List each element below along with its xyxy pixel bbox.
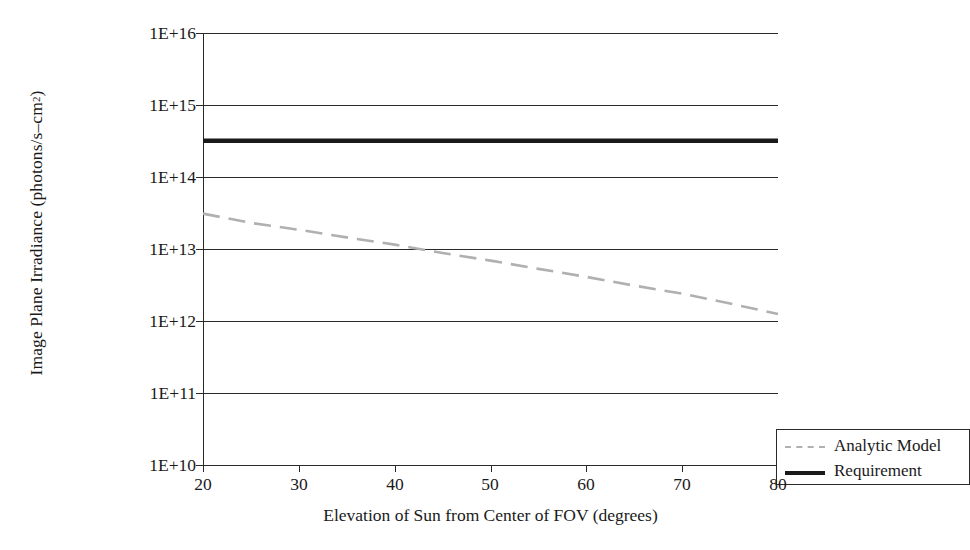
- legend-label: Requirement: [834, 462, 922, 479]
- x-tick-label: 70: [642, 474, 722, 495]
- x-tick-label: 20: [163, 474, 243, 495]
- x-tick-label: 30: [259, 474, 339, 495]
- x-axis-title: Elevation of Sun from Center of FOV (deg…: [203, 505, 778, 526]
- legend-label: Analytic Model: [834, 437, 941, 454]
- x-tick-label: 50: [450, 474, 530, 495]
- x-tick-label: 80: [738, 474, 818, 495]
- x-tick-label: 40: [355, 474, 435, 495]
- x-tick-label: 60: [546, 474, 626, 495]
